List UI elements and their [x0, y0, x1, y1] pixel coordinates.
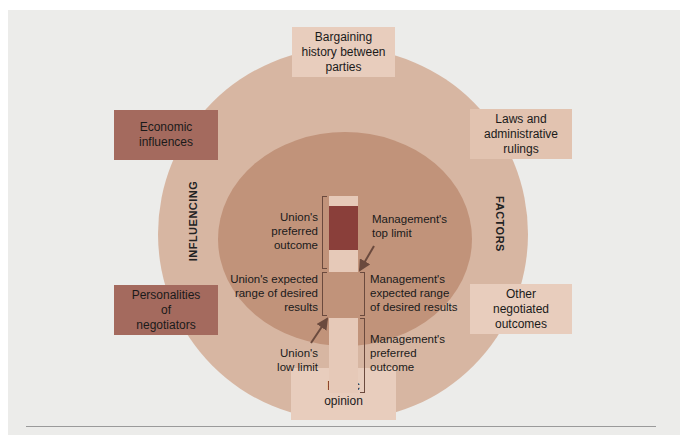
union-preferred-label: Union's preferred outcome	[240, 210, 318, 252]
factor-box-personalities: Personalities of negotiators	[114, 285, 218, 335]
influencing-label: INFLUENCING	[187, 181, 199, 262]
factor-box-economic-influences: Economic influences	[114, 110, 218, 160]
factor-box-other-outcomes: Other negotiated outcomes	[470, 284, 572, 334]
union-expected-label: Union's expected range of desired result…	[212, 272, 318, 314]
management-preferred-segment	[329, 318, 358, 393]
mgmt-expected-label: Management's expected range of desired r…	[370, 272, 485, 314]
mgmt-preferred-label: Management's preferred outcome	[370, 332, 480, 374]
factor-box-bargaining-history: Bargaining history between parties	[292, 27, 395, 77]
mgmt-preferred-bracket	[360, 318, 365, 393]
mgmt-expected-bracket	[360, 272, 365, 316]
factor-box-laws-rulings: Laws and administrative rulings	[470, 109, 572, 159]
bottom-rule	[26, 426, 656, 427]
union-preferred-bracket	[322, 196, 327, 269]
union-expected-bracket	[322, 272, 327, 316]
union-low-limit-label: Union's low limit	[240, 346, 318, 374]
factors-label: FACTORS	[494, 196, 506, 252]
mgmt-top-limit-label: Management's top limit	[372, 212, 482, 240]
overlap-segment	[329, 206, 358, 250]
